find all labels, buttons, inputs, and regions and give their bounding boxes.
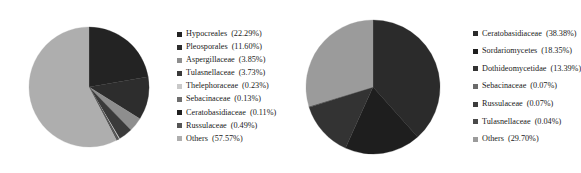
legend-item-label: Others [482,135,504,143]
legend-swatch-icon [473,84,478,89]
pie-right-svg [305,19,441,155]
legend-item-percent: (22.29%) [231,30,262,38]
legend-item-label: Hypocreales [186,30,227,38]
pie-chart-right [305,19,441,155]
legend-item-label: Ceratobasidiaceae [482,30,542,38]
legend-item-label: Pleosporales [186,43,228,51]
legend-item[interactable]: Sebacinaceae(0.13%) [177,93,276,106]
legend-swatch-icon [473,102,478,107]
legend-swatch-icon [177,136,182,141]
legend-swatch-icon [177,32,182,37]
legend-item-label: Tulasnellaceae [482,118,531,126]
legend-item[interactable]: Ceratobasidiaceae(0.11%) [177,106,276,119]
legend-item-percent: (3.73%) [239,69,266,77]
legend-item-percent: (29.70%) [508,135,539,143]
legend-item[interactable]: Aspergillaceae(3.85%) [177,54,276,67]
legend-item-percent: (0.07%) [527,100,554,108]
legend-item[interactable]: Others(57.57%) [177,132,276,145]
legend-item-label: Ceratobasidiaceae [186,109,246,117]
legend-item-label: Tulasnellaceae [186,69,235,77]
legend-item-label: Thelephoraceae [186,82,238,90]
legend-item-label: Others [186,135,208,143]
legend-right: Ceratobasidiaceae(38.38%)Sordariomycetes… [473,25,581,148]
legend-item-percent: (3.85%) [239,56,266,64]
legend-item-percent: (18.35%) [541,47,572,55]
legend-item-label: Sebacinaceae [482,82,526,90]
legend-item[interactable]: Sordariomycetes(18.35%) [473,43,581,61]
legend-swatch-icon [177,123,182,128]
legend-item-percent: (38.38%) [546,30,577,38]
legend-item-percent: (57.57%) [212,135,243,143]
legend-item[interactable]: Russulaceae(0.07%) [473,95,581,113]
legend-item[interactable]: Tulasnellaceae(0.04%) [473,113,581,131]
legend-item-label: Sebacinaceae [186,95,230,103]
legend-item-percent: (0.23%) [242,82,269,90]
legend-item-label: Dothideomycetidae [482,65,546,73]
legend-item[interactable]: Sebacinaceae(0.07%) [473,78,581,96]
legend-item[interactable]: Russulaceae(0.49%) [177,119,276,132]
pie-slice [89,27,148,87]
legend-item[interactable]: Others(29.70%) [473,130,581,148]
legend-item[interactable]: Tulasnellaceae(3.73%) [177,67,276,80]
pie-left-svg [28,26,150,148]
legend-left: Hypocreales(22.29%)Pleosporales(11.60%)A… [177,28,276,146]
legend-item-label: Sordariomycetes [482,47,537,55]
legend-item[interactable]: Pleosporales(11.60%) [177,41,276,54]
legend-swatch-icon [473,119,478,124]
legend-swatch-icon [177,58,182,63]
legend-swatch-icon [473,66,478,71]
legend-swatch-icon [473,49,478,54]
legend-item-percent: (11.60%) [232,43,262,51]
chart-panel-left: Hypocreales(22.29%)Pleosporales(11.60%)A… [0,0,289,173]
legend-swatch-icon [177,110,182,115]
legend-swatch-icon [177,71,182,76]
legend-item[interactable]: Ceratobasidiaceae(38.38%) [473,25,581,43]
legend-item[interactable]: Thelephoraceae(0.23%) [177,80,276,93]
legend-item-percent: (0.49%) [231,122,258,130]
legend-item[interactable]: Dothideomycetidae(13.39%) [473,60,581,78]
legend-swatch-icon [177,84,182,89]
legend-item-label: Russulaceae [482,100,523,108]
pie-chart-left [28,26,150,148]
legend-swatch-icon [177,97,182,102]
chart-panel-right: Ceratobasidiaceae(38.38%)Sordariomycetes… [289,0,578,173]
legend-item-label: Russulaceae [186,122,227,130]
legend-item-label: Aspergillaceae [186,56,235,64]
legend-item-percent: (0.07%) [530,82,557,90]
legend-item-percent: (0.13%) [234,95,261,103]
legend-swatch-icon [473,137,478,142]
legend-item[interactable]: Hypocreales(22.29%) [177,28,276,41]
legend-item-percent: (0.04%) [535,118,562,126]
legend-swatch-icon [473,31,478,36]
legend-item-percent: (13.39%) [550,65,581,73]
legend-swatch-icon [177,45,182,50]
legend-item-percent: (0.11%) [250,109,276,117]
